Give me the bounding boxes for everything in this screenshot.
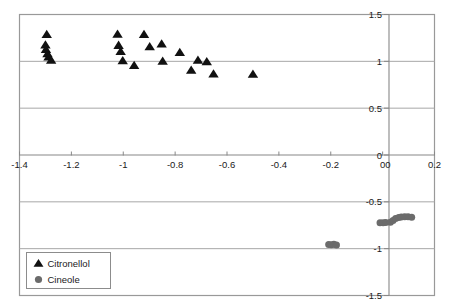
x-tick-label: -1 [119, 159, 127, 170]
y-tick-label: 0 [377, 150, 382, 161]
x-tick-label: -0.8 [167, 159, 183, 170]
data-point-cineole [408, 214, 415, 221]
legend-marker-cineole [35, 276, 42, 283]
legend-label-cineole: Cineole [48, 274, 80, 285]
x-tick-label: -1.2 [63, 159, 79, 170]
x-tick-label: 0.2 [428, 159, 441, 170]
origin-label: 0 [385, 159, 390, 170]
legend-label-citronellol: Citronellol [48, 258, 90, 269]
y-tick-label: 1.5 [369, 9, 382, 20]
data-point-cineole [333, 241, 340, 248]
y-tick-label: -1 [374, 243, 382, 254]
scatter-chart: -1.4-1.2-1-0.8-0.6-0.4-0.200.21.510.50-0… [0, 0, 452, 308]
y-tick-label: -0.5 [366, 196, 382, 207]
x-tick-label: -0.6 [219, 159, 235, 170]
y-tick-label: 0.5 [369, 103, 382, 114]
plot-area: -1.4-1.2-1-0.8-0.6-0.4-0.200.21.510.50-0… [0, 0, 452, 308]
y-tick-label: -1.5 [366, 290, 382, 301]
x-tick-label: -0.2 [323, 159, 339, 170]
y-tick-label: 1 [377, 56, 382, 67]
x-tick-label: -0.4 [271, 159, 287, 170]
x-tick-label: -1.4 [11, 159, 27, 170]
